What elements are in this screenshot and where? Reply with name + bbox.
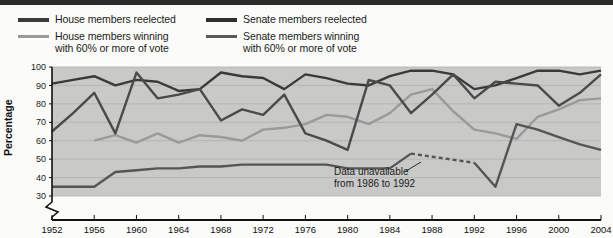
chart-plot-area: Percentage 30405060708090100 19521956196… — [0, 60, 613, 238]
legend-line-icon-senate-60pct — [206, 35, 237, 39]
x-axis-tick-label: 2000 — [548, 224, 569, 235]
y-axis-tick-label: 80 — [36, 99, 46, 109]
annotation-line-2: from 1986 to 1992 — [334, 178, 416, 189]
annotation-line-1: Data unavailable — [334, 166, 409, 177]
chart-figure: House members reelected House members wi… — [0, 0, 613, 238]
x-axis-tick-label: 1964 — [168, 224, 189, 235]
x-axis-tick-label: 1956 — [84, 224, 105, 235]
legend-column-senate: Senate members reelected Senate members … — [206, 13, 367, 59]
x-axis-tick-label: 1976 — [295, 224, 316, 235]
x-axis-tick-label: 1996 — [506, 224, 527, 235]
chart-svg: 30405060708090100 1952195619601964196819… — [0, 60, 613, 238]
legend-item-house-reelected: House members reelected — [18, 13, 176, 26]
annotation-data-unavailable: Data unavailable from 1986 to 1992 — [334, 162, 421, 189]
y-axis-tick-label: 70 — [36, 117, 46, 127]
y-axis-tick-label: 40 — [36, 173, 46, 183]
legend-item-senate-60pct: Senate members winning with 60% or more … — [206, 30, 367, 55]
legend-line-icon-house-60pct — [18, 35, 49, 38]
legend-label-senate-60pct: Senate members winning with 60% or more … — [243, 30, 359, 55]
x-axis-tick-label: 1992 — [464, 224, 485, 235]
y-axis-tick-label: 60 — [36, 136, 46, 146]
plot-background — [52, 67, 601, 196]
page-edge-strip — [0, 0, 613, 5]
legend-item-house-60pct: House members winning with 60% or more o… — [18, 30, 176, 55]
legend-label-senate-reelected: Senate members reelected — [243, 13, 367, 26]
legend-line-icon-senate-reelected — [206, 18, 237, 22]
x-axis-tick-label: 1952 — [41, 224, 62, 235]
legend-column-house: House members reelected House members wi… — [18, 13, 176, 59]
x-axis-tick-label: 1980 — [337, 224, 358, 235]
chart-legend: House members reelected House members wi… — [18, 13, 448, 55]
x-axis-tick-label: 1988 — [422, 224, 443, 235]
y-axis-tick-label: 90 — [36, 81, 46, 91]
x-axis-tick-labels: 1952195619601964196819721976198019841988… — [41, 224, 611, 235]
x-axis-tick-label: 1984 — [379, 224, 400, 235]
x-axis-tick-label: 1972 — [253, 224, 274, 235]
y-axis-tick-labels: 30405060708090100 — [31, 62, 46, 201]
y-axis-tick-label: 100 — [31, 62, 46, 72]
legend-label-house-60pct: House members winning with 60% or more o… — [55, 30, 169, 55]
legend-label-house-reelected: House members reelected — [55, 13, 176, 26]
y-axis-tick-label: 50 — [36, 154, 46, 164]
x-axis-tick-label: 1960 — [126, 224, 147, 235]
x-axis-tick-label: 2004 — [590, 224, 611, 235]
legend-item-senate-reelected: Senate members reelected — [206, 13, 367, 26]
x-axis-tick-label: 1968 — [210, 224, 231, 235]
legend-line-icon-house-reelected — [18, 18, 49, 22]
y-axis-tick-label: 30 — [36, 191, 46, 201]
